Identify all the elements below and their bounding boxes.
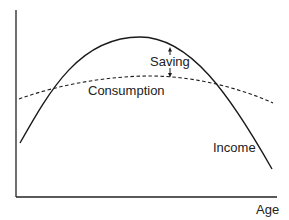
- consumption-label: Consumption: [88, 83, 165, 98]
- income-label: Income: [213, 140, 256, 155]
- x-axis-label: Age: [256, 202, 279, 217]
- life-cycle-chart: Saving Consumption Income Age: [0, 0, 289, 220]
- saving-label: Saving: [150, 54, 190, 69]
